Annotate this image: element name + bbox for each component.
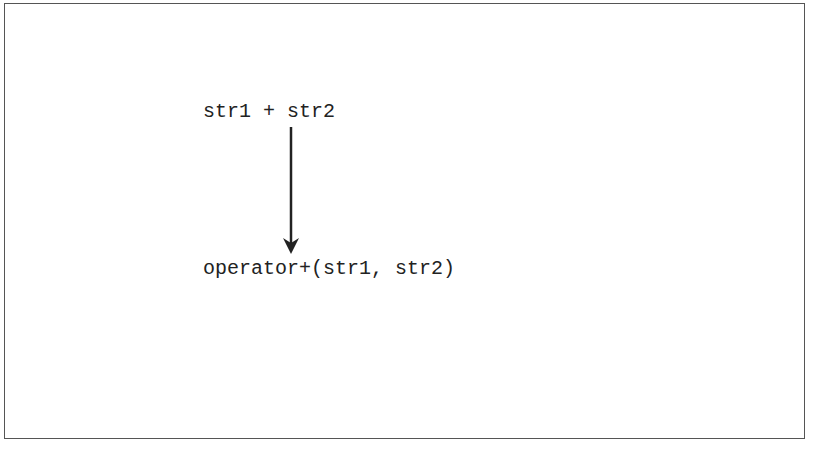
- operator-call-text: operator+(str1, str2): [203, 259, 455, 279]
- down-arrow-icon: [0, 0, 815, 450]
